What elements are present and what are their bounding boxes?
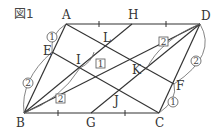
svg-text:1: 1	[170, 97, 176, 107]
boxed-ratio-kd: 2	[159, 37, 168, 47]
svg-text:2: 2	[25, 78, 31, 88]
circled-ratio-eb: 2	[23, 78, 33, 88]
label-k: K	[132, 63, 142, 77]
figure-title: 図1	[14, 7, 34, 21]
label-j: J	[112, 94, 119, 108]
circled-ratio-df: 2	[191, 56, 201, 66]
svg-text:1: 1	[49, 32, 55, 42]
segment-ec	[52, 52, 159, 113]
label-c: C	[155, 116, 164, 130]
boxed-ratio-bi: 2	[56, 94, 65, 104]
svg-text:2: 2	[58, 94, 64, 104]
label-h: H	[128, 8, 138, 22]
circled-ratio-fc: 1	[168, 97, 178, 107]
label-f: F	[176, 79, 184, 93]
segment-af	[66, 24, 174, 84]
label-l: L	[103, 31, 111, 45]
geometry-figure: 図1 1 2 2	[0, 0, 221, 139]
svg-text:1: 1	[98, 59, 104, 69]
boxed-ratio-il: 1	[96, 59, 105, 69]
label-b: B	[16, 116, 25, 130]
svg-text:2: 2	[161, 37, 167, 47]
label-a: A	[61, 8, 71, 22]
label-g: G	[86, 116, 96, 130]
label-d: D	[201, 9, 211, 23]
circled-ratio-ae: 1	[47, 32, 57, 42]
label-e: E	[43, 44, 52, 58]
svg-text:2: 2	[193, 56, 199, 66]
label-i: I	[76, 53, 81, 67]
